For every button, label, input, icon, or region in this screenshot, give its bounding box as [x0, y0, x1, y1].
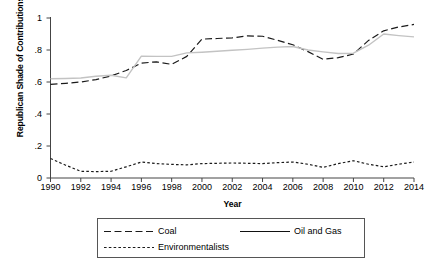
series-line-oil-and-gas: [51, 34, 415, 79]
legend-label-oil-and-gas: Oil and Gas: [294, 226, 342, 237]
legend-label-coal: Coal: [158, 226, 177, 237]
chart-legend: Coal Oil and Gas Environmentalists: [97, 218, 365, 258]
legend-label-environmentalists: Environmentalists: [158, 242, 229, 253]
series-line-environmentalists: [51, 158, 415, 171]
legend-swatch-environmentalists: [104, 247, 154, 248]
legend-swatch-oil-and-gas: [240, 231, 290, 232]
legend-swatch-coal: [104, 231, 154, 232]
